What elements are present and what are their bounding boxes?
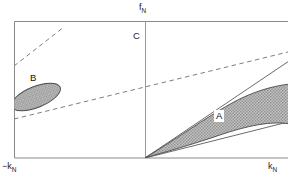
steep-dashed-line (14, 27, 64, 66)
diagram-canvas (0, 0, 288, 184)
axis-label-fn: fN (139, 3, 146, 14)
region-label-a: A (214, 110, 224, 122)
region-b-shape (8, 78, 64, 117)
axis-label-kn-sub: N (273, 166, 278, 173)
axis-label-minus-kn-base: −k (2, 161, 12, 171)
axis-label-minus-kn-sub: N (12, 166, 17, 173)
axis-label-fn-sub: N (142, 7, 147, 14)
axis-label-kn: kN (268, 162, 277, 173)
axis-label-minus-kn: −kN (2, 162, 16, 173)
phase-diagram: fN C −kN kN A B (0, 0, 288, 184)
region-label-b: B (30, 73, 36, 83)
curve-label-c: C (133, 31, 140, 41)
